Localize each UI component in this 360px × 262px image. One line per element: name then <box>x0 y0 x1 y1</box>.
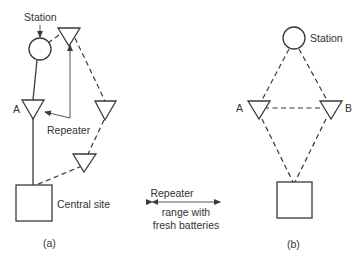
legend-line-2: range with <box>162 206 211 218</box>
range-arrow-left-head <box>152 199 158 205</box>
central-site-box <box>16 185 52 221</box>
panel-a: Station A Repeater Central site (a) <box>13 11 116 249</box>
panel-b: Station A B (b) <box>236 27 352 250</box>
caption-a: (a) <box>43 237 56 249</box>
repeater-a <box>22 100 44 119</box>
link-station-to-b-b <box>299 49 328 102</box>
link-b-to-central-b <box>295 119 326 182</box>
link-station-to-a-b <box>261 49 289 102</box>
repeater-right <box>95 101 116 120</box>
link-station-to-a <box>33 60 37 100</box>
legend-line-3: fresh batteries <box>153 219 220 231</box>
node-a-label-b: A <box>236 102 243 114</box>
repeater-pointer-to-a <box>45 112 70 118</box>
network-diagram: Station A Repeater Central site (a) Repe… <box>0 0 360 262</box>
repeater-a-b <box>248 101 270 119</box>
repeater-top <box>58 28 80 46</box>
link-top-to-right-repeater <box>75 38 105 101</box>
central-site-box-b <box>277 182 312 218</box>
link-right-to-lower-repeater <box>88 120 104 154</box>
repeater-b-b <box>320 101 342 119</box>
station-label-b: Station <box>310 32 343 44</box>
node-b-label-b: B <box>345 102 352 114</box>
link-lower-repeater-to-central <box>36 166 82 185</box>
station-node-b <box>283 27 305 49</box>
legend-line-1: Repeater <box>150 187 194 199</box>
station-node <box>29 38 51 60</box>
caption-b: (b) <box>287 238 300 250</box>
link-a-to-central-b <box>262 119 293 182</box>
central-site-label: Central site <box>57 198 110 210</box>
repeater-range-legend: Repeater range with fresh batteries <box>150 187 220 231</box>
node-a-label-a: A <box>13 103 20 115</box>
repeater-lower <box>73 154 96 172</box>
repeater-label-a: Repeater <box>47 124 91 136</box>
station-label-a: Station <box>24 11 57 23</box>
